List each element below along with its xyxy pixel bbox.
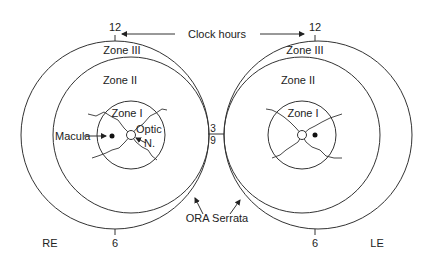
re-zone-2-label: Zone II bbox=[103, 74, 137, 86]
re-zone-1-label: Zone I bbox=[111, 107, 142, 119]
left-eye: 12 6 Zone III Zone II Zone I LE bbox=[224, 21, 412, 249]
re-label: RE bbox=[42, 237, 57, 249]
re-ora-serrata-circle bbox=[21, 41, 209, 229]
optic-n-label: N. bbox=[144, 137, 155, 149]
le-label: LE bbox=[370, 237, 383, 249]
re-zone-3-label: Zone III bbox=[103, 44, 140, 56]
le-zone-1-label: Zone I bbox=[287, 107, 318, 119]
clock-hours-indicator: Clock hours bbox=[122, 28, 304, 40]
le-macula-dot bbox=[313, 133, 318, 138]
macula-label: Macula bbox=[55, 130, 91, 142]
le-zone-3-label: Zone III bbox=[286, 44, 323, 56]
right-eye: 12 6 Zone III Zone II Zone I Macula Opti… bbox=[21, 21, 209, 249]
re-vessel-lower-temporal bbox=[92, 135, 131, 158]
le-ora-serrata-circle bbox=[224, 41, 412, 229]
re-clock-12: 12 bbox=[109, 21, 121, 33]
le-zone-2-label: Zone II bbox=[281, 74, 315, 86]
le-clock-12: 12 bbox=[309, 21, 321, 33]
le-vessel-lower-nasal bbox=[272, 135, 302, 158]
re-optic-disc bbox=[127, 131, 136, 140]
ora-serrata-annotation: ORA Serrata bbox=[186, 198, 249, 224]
re-clock-6: 6 bbox=[112, 237, 118, 249]
retina-zones-diagram: Clock hours 12 6 Zone III Zone II Zone I… bbox=[0, 0, 436, 266]
optic-label: Optic bbox=[136, 123, 162, 135]
re-macula-dot bbox=[110, 134, 115, 139]
le-optic-disc bbox=[298, 131, 307, 140]
clock-9: 9 bbox=[210, 135, 216, 146]
ora-serrata-label: ORA Serrata bbox=[186, 212, 249, 224]
clock-3: 3 bbox=[210, 123, 216, 134]
clock-3-9-marker: 3 9 bbox=[208, 123, 224, 146]
clock-hours-label: Clock hours bbox=[188, 28, 247, 40]
le-clock-6: 6 bbox=[312, 237, 318, 249]
